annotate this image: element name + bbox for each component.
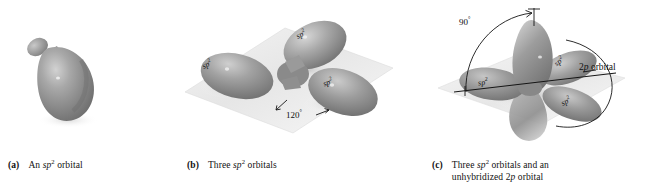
cap-c-sp: sp: [477, 160, 486, 170]
panel-a-caption-text: An sp2 orbital: [28, 160, 82, 172]
sp2-lobe-left-highlight: [225, 67, 229, 70]
panel-a-caption: (a)An sp2 orbital: [8, 160, 168, 172]
sp2-orbital-figure: (a)An sp2 orbital: [0, 0, 655, 196]
angle-value: 90: [459, 17, 468, 27]
cap-c2-pre: unhybridized 2: [452, 172, 511, 182]
panel-c-caption: (c)Three sp2 orbitals and anunhybridized…: [432, 160, 647, 183]
cap-c-post: orbitals and an: [489, 160, 549, 170]
panel-b-illustration: [175, 0, 420, 150]
sp2-sup: 2: [484, 76, 488, 82]
panel-c-illustration: [420, 0, 655, 150]
cap-b-post: orbitals: [245, 160, 277, 170]
panel-c: sp2 sp2 sp2 90° 2p orbital (c)Three sp2 …: [420, 0, 655, 150]
lobe-highlight: [56, 76, 60, 79]
panel-b-tag: (b): [187, 160, 199, 170]
angle-unit: °: [300, 109, 302, 115]
panel-c-caption-text: Three sp2 orbitals and anunhybridized 2p…: [452, 160, 549, 183]
cap-a-pre: An: [28, 160, 42, 170]
panel-b-angle-120-label: 120°: [286, 110, 302, 120]
angle-unit: °: [468, 16, 470, 22]
cap-b-sp: sp: [233, 160, 242, 170]
angle-value: 120: [286, 110, 300, 120]
callout-post: orbital: [589, 62, 616, 72]
p-orbital-highlight: [538, 55, 542, 58]
panel-c-2p-orbital-callout: 2p orbital: [579, 62, 616, 72]
panel-c-angle-90-label: 90°: [459, 17, 470, 27]
panel-c-tag: (c): [432, 160, 443, 170]
cap-c2-post: orbital: [515, 172, 543, 182]
cap-a-post: orbital: [55, 160, 83, 170]
panel-a: (a)An sp2 orbital: [0, 0, 175, 150]
panel-b: sp2 sp2 sp2 120° (b)Three sp2 orbitals: [175, 0, 420, 150]
cap-c-pre: Three: [452, 160, 477, 170]
panel-b-caption: (b)Three sp2 orbitals: [187, 160, 397, 172]
panel-b-caption-text: Three sp2 orbitals: [208, 160, 277, 172]
cap-b-pre: Three: [208, 160, 233, 170]
panel-a-tag: (a): [8, 160, 19, 170]
panel-c-sp2-label-left: sp2: [477, 77, 488, 87]
panel-a-illustration: [0, 0, 175, 150]
